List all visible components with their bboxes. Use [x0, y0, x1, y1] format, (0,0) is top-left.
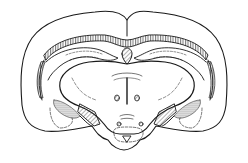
- stippled-region-right: [174, 100, 201, 118]
- optic-tract-right: [154, 104, 176, 126]
- optic-tract-left: [78, 104, 100, 126]
- stippled-region-left: [53, 100, 80, 118]
- brain-section-svg: [0, 0, 248, 163]
- third-ventricle-knot: [122, 48, 132, 64]
- outer-cortex-outline: [21, 11, 227, 150]
- brain-section-diagram: [0, 0, 248, 163]
- hippocampus-right: [134, 48, 206, 80]
- ventral-triangle: [123, 136, 131, 142]
